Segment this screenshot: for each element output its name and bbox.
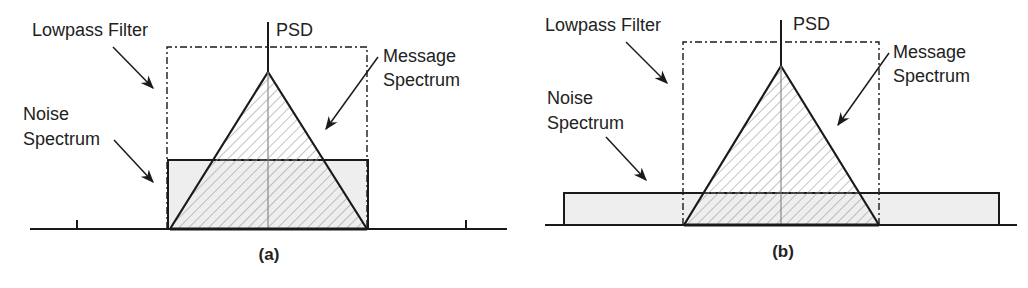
panel-a: PSD Lowpass Filter Message Spectrum Nois…: [23, 20, 507, 264]
psd-label: PSD: [793, 14, 830, 34]
noise-spectrum-label-2: Spectrum: [23, 129, 100, 149]
caption-b: (b): [772, 242, 794, 261]
noise-spectrum-label-1: Noise: [23, 104, 69, 124]
message-arrow: [838, 53, 889, 125]
lowpass-arrow: [113, 47, 153, 88]
lowpass-filter-label: Lowpass Filter: [32, 20, 148, 40]
message-spectrum-label-2: Spectrum: [893, 66, 970, 86]
message-spectrum-label-2: Spectrum: [383, 70, 460, 90]
panel-b: PSD Lowpass Filter Message Spectrum Nois…: [545, 14, 1017, 261]
lowpass-arrow: [626, 42, 667, 83]
noise-arrow: [606, 137, 646, 180]
message-spectrum-label-1: Message: [893, 42, 966, 62]
noise-spectrum-label-2: Spectrum: [547, 113, 624, 133]
noise-arrow: [114, 140, 153, 182]
message-arrow: [326, 57, 378, 129]
psd-diagram: PSD Lowpass Filter Message Spectrum Nois…: [0, 0, 1028, 288]
message-spectrum-label-1: Message: [383, 46, 456, 66]
psd-label: PSD: [276, 20, 313, 40]
lowpass-filter-label: Lowpass Filter: [545, 15, 661, 35]
caption-a: (a): [259, 245, 280, 264]
noise-spectrum-label-1: Noise: [547, 88, 593, 108]
